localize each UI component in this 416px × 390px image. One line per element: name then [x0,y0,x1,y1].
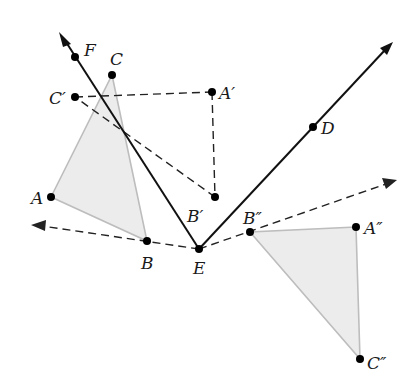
point-e [195,245,203,253]
point-a [47,193,55,201]
point-a1 [208,88,216,96]
point-b1 [211,193,219,201]
point-a2 [352,223,360,231]
label-c: C [110,49,123,69]
arrowhead-icon [59,32,71,47]
label-a: A [29,188,43,208]
label-b1: B′ [186,206,203,226]
triangle-a2b2c2 [250,227,360,359]
geometry-diagram: A B C A′ B′ C′ A″ B″ C″ D E F [0,0,416,390]
point-b2 [246,228,254,236]
arrowhead-icon [382,178,397,189]
label-b2: B″ [242,208,262,228]
label-b: B [140,253,154,273]
point-f [71,53,79,61]
point-c1 [71,93,79,101]
label-a1: A′ [217,83,235,103]
label-c1: C′ [49,88,66,108]
label-d: D [320,118,335,138]
point-c [108,71,116,79]
label-a2: A″ [362,218,383,238]
arrowhead-icon [31,220,46,231]
label-c2: C″ [367,353,387,373]
point-b [143,237,151,245]
point-d [309,123,317,131]
label-e: E [192,258,206,278]
label-f: F [83,40,97,60]
point-c2 [356,355,364,363]
